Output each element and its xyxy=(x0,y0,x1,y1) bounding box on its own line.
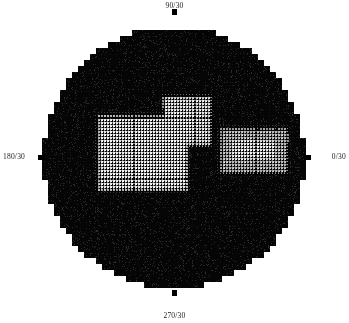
tick-0-icon xyxy=(304,155,311,160)
visual-field-plot: 90/30 0/30 270/30 180/30 xyxy=(0,0,349,323)
meridian-label-bottom: 270/30 xyxy=(0,311,349,320)
tick-270-icon xyxy=(172,290,177,296)
meridian-label-left: 180/30 xyxy=(3,152,25,161)
meridian-label-right: 0/30 xyxy=(332,152,346,161)
tick-180-icon xyxy=(38,155,45,160)
meridian-label-top: 90/30 xyxy=(0,1,349,10)
field-canvas xyxy=(0,0,349,323)
